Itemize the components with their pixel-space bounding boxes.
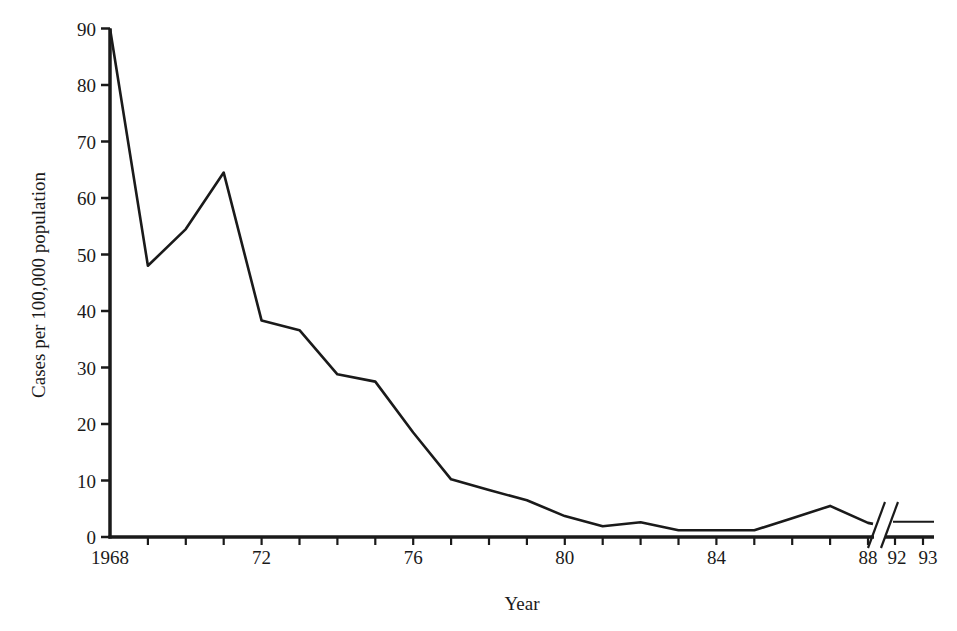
x-tick-label: 84 — [707, 547, 727, 568]
y-axis: 0102030405060708090 — [77, 19, 110, 549]
x-axis: 196872768084889293 — [91, 537, 938, 568]
x-tick-label: 88 — [859, 547, 878, 568]
x-tick-label: 93 — [919, 547, 938, 568]
y-tick-label: 10 — [77, 471, 96, 492]
line-chart: 0102030405060708090 196872768084889293 C… — [0, 0, 957, 631]
y-tick-label: 90 — [77, 19, 96, 40]
y-tick-label: 20 — [77, 414, 96, 435]
figure-caption-clipped — [16, 624, 151, 631]
y-tick-label: 70 — [77, 132, 96, 153]
x-tick-label: 72 — [252, 547, 271, 568]
y-tick-label: 50 — [77, 245, 96, 266]
x-tick-label: 80 — [555, 547, 574, 568]
y-tick-label: 60 — [77, 188, 96, 209]
y-tick-label: 30 — [77, 358, 96, 379]
data-series — [110, 29, 934, 531]
x-tick-label: 1968 — [91, 547, 129, 568]
y-tick-label: 0 — [87, 527, 97, 548]
y-tick-label: 40 — [77, 301, 96, 322]
series-line-1968-1988 — [110, 29, 873, 531]
x-tick-label: 76 — [404, 547, 423, 568]
y-axis-title: Cases per 100,000 population — [28, 172, 49, 398]
axis-break-marks — [868, 502, 898, 550]
x-tick-label: 92 — [888, 547, 907, 568]
x-axis-title: Year — [504, 593, 540, 614]
y-tick-label: 80 — [77, 75, 96, 96]
